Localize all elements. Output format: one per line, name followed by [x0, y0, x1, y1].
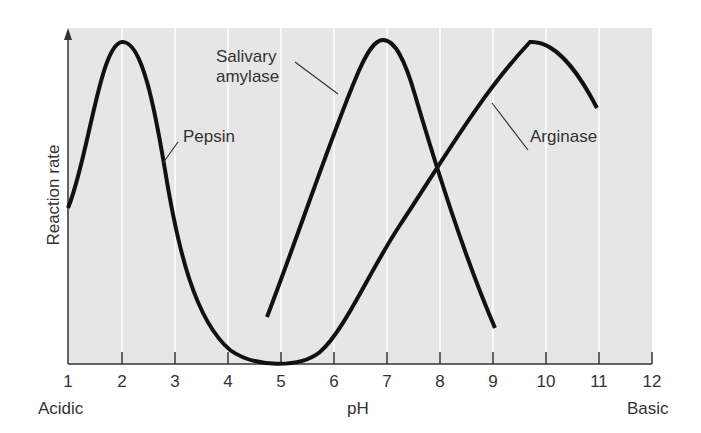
acidic-label: Acidic	[38, 400, 83, 417]
x-tick-6: 6	[329, 372, 338, 392]
x-tick-5: 5	[276, 372, 285, 392]
x-tick-11: 11	[590, 372, 608, 392]
x-tick-12: 12	[643, 372, 662, 392]
pepsin-label: Pepsin	[183, 128, 235, 145]
y-axis-label: Reaction rate	[44, 144, 64, 245]
basic-label: Basic	[627, 400, 669, 417]
x-tick-4: 4	[223, 372, 232, 392]
x-tick-8: 8	[435, 372, 444, 392]
x-tick-2: 2	[117, 372, 126, 392]
plot-background	[68, 28, 652, 364]
x-axis-label: pH	[347, 400, 369, 417]
salivary-label-line2: amylase	[216, 68, 279, 85]
x-tick-1: 1	[63, 372, 72, 392]
x-tick-3: 3	[170, 372, 179, 392]
x-tick-10: 10	[537, 372, 556, 392]
x-tick-7: 7	[382, 372, 391, 392]
chart-canvas	[0, 0, 701, 433]
arginase-label: Arginase	[530, 128, 597, 145]
salivary-label-line1: Salivary	[216, 48, 276, 65]
x-tick-9: 9	[488, 372, 497, 392]
